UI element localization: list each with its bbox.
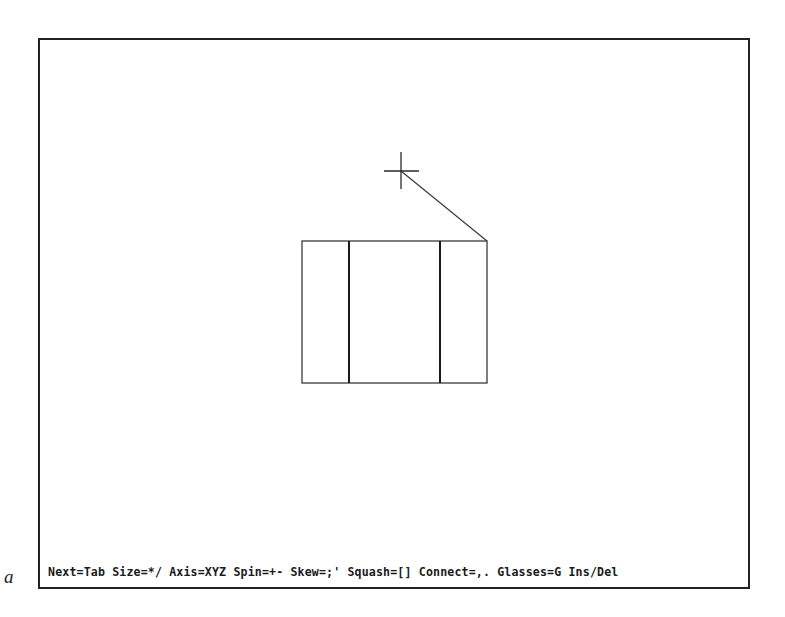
wireframe-box[interactable] bbox=[302, 241, 487, 383]
crosshair-cursor-icon[interactable] bbox=[384, 152, 419, 189]
box-outline bbox=[302, 241, 487, 383]
connector-line bbox=[401, 171, 487, 241]
drawing-canvas[interactable] bbox=[0, 0, 785, 617]
status-bar-commands: Next=Tab Size=*/ Axis=XYZ Spin=+- Skew=;… bbox=[48, 565, 618, 579]
